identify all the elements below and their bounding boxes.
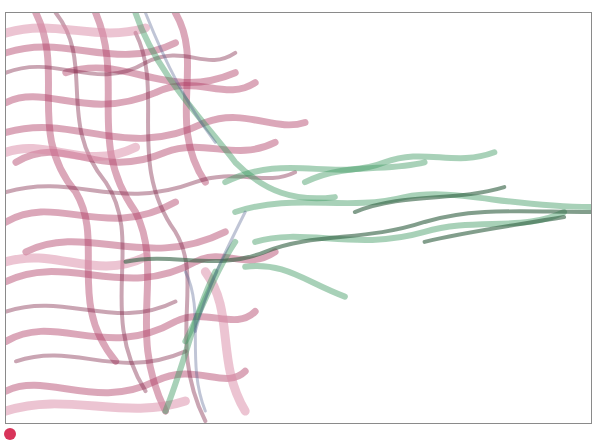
ribbon-illustration — [6, 13, 591, 423]
crimson-ribbons — [6, 13, 305, 421]
artwork-frame — [5, 12, 592, 424]
green-ribbons — [126, 13, 591, 411]
corner-marker-dot — [4, 428, 16, 440]
